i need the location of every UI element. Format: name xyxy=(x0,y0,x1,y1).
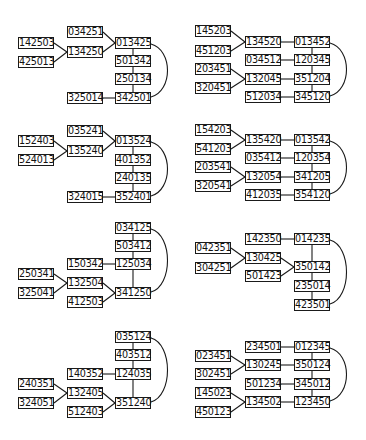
edge xyxy=(231,248,245,258)
edge xyxy=(103,131,115,141)
permutation-node: 135240 xyxy=(67,145,103,157)
edge xyxy=(231,130,245,140)
arc-edge xyxy=(151,338,168,402)
permutation-node: 134250 xyxy=(67,46,103,58)
permutation-node: 123450 xyxy=(294,396,330,408)
permutation-node: 320451 xyxy=(195,82,231,94)
permutation-node: 351204 xyxy=(294,73,330,85)
permutation-node: 412503 xyxy=(67,296,103,308)
edge xyxy=(103,403,115,412)
permutation-node: 320541 xyxy=(195,180,231,192)
edge xyxy=(231,79,245,88)
permutation-node: 013524 xyxy=(115,135,151,147)
edge xyxy=(231,402,245,412)
arc-edge xyxy=(330,348,347,401)
permutation-node: 203451 xyxy=(195,63,231,75)
permutation-node: 342501 xyxy=(115,92,151,104)
permutation-node: 034251 xyxy=(67,26,103,38)
permutation-node: 425013 xyxy=(18,56,54,68)
edge xyxy=(54,283,67,293)
edge xyxy=(103,32,115,43)
edge xyxy=(103,293,115,302)
permutation-node: 035412 xyxy=(245,152,281,164)
permutation-node: 341205 xyxy=(294,171,330,183)
permutation-node: 125034 xyxy=(115,258,151,270)
edge xyxy=(231,258,245,268)
edge xyxy=(103,141,115,151)
permutation-node: 023451 xyxy=(195,350,231,362)
permutation-node: 503412 xyxy=(115,240,151,252)
permutation-node: 250134 xyxy=(115,73,151,85)
edge xyxy=(54,151,67,160)
permutation-node: 450123 xyxy=(195,406,231,418)
edges-layer xyxy=(0,0,366,440)
edge xyxy=(103,283,115,293)
permutation-node: 350142 xyxy=(294,261,330,273)
permutation-node: 132054 xyxy=(245,171,281,183)
permutation-node: 451203 xyxy=(195,45,231,57)
permutation-node: 132504 xyxy=(67,277,103,289)
permutation-node: 130245 xyxy=(245,359,281,371)
permutation-node: 034125 xyxy=(115,222,151,234)
permutation-node: 341250 xyxy=(115,287,151,299)
edge xyxy=(231,42,245,51)
permutation-node: 120354 xyxy=(294,152,330,164)
permutation-node: 304251 xyxy=(195,262,231,274)
permutation-node: 134520 xyxy=(245,36,281,48)
permutation-node: 324015 xyxy=(67,191,103,203)
permutation-node: 501423 xyxy=(245,270,281,282)
permutation-node: 132405 xyxy=(67,387,103,399)
permutation-node: 142503 xyxy=(18,37,54,49)
permutation-node: 135420 xyxy=(245,134,281,146)
permutation-node: 352401 xyxy=(115,191,151,203)
permutation-node: 203541 xyxy=(195,161,231,173)
edge xyxy=(281,258,294,267)
edge xyxy=(231,356,245,365)
permutation-node: 350124 xyxy=(294,359,330,371)
edge xyxy=(231,167,245,177)
edge xyxy=(231,69,245,79)
permutation-node: 142350 xyxy=(245,233,281,245)
edge xyxy=(231,140,245,149)
permutation-node: 234501 xyxy=(245,341,281,353)
permutation-node: 132045 xyxy=(245,73,281,85)
permutation-node: 403512 xyxy=(115,349,151,361)
permutation-node: 240351 xyxy=(18,378,54,390)
permutation-node: 302451 xyxy=(195,368,231,380)
permutation-node: 345012 xyxy=(294,378,330,390)
arc-edge xyxy=(330,141,347,194)
permutation-node: 042351 xyxy=(195,242,231,254)
edge xyxy=(54,141,67,151)
permutation-node: 345120 xyxy=(294,91,330,103)
permutation-node: 013425 xyxy=(115,37,151,49)
permutation-node: 325014 xyxy=(67,92,103,104)
permutation-node: 324051 xyxy=(18,397,54,409)
permutation-node: 120345 xyxy=(294,54,330,66)
permutation-node: 235014 xyxy=(294,280,330,292)
arc-edge xyxy=(151,142,168,196)
permutation-node: 034512 xyxy=(245,54,281,66)
permutation-node: 145203 xyxy=(195,25,231,37)
permutation-node: 501342 xyxy=(115,55,151,67)
permutation-node: 412035 xyxy=(245,189,281,201)
edge xyxy=(54,274,67,283)
permutation-node: 512403 xyxy=(67,406,103,418)
permutation-node: 354120 xyxy=(294,189,330,201)
permutation-node: 512034 xyxy=(245,91,281,103)
permutation-node: 014235 xyxy=(294,233,330,245)
edge xyxy=(103,43,115,52)
permutation-node: 250341 xyxy=(18,268,54,280)
arc-edge xyxy=(330,43,347,96)
edge xyxy=(103,393,115,403)
permutation-node: 134502 xyxy=(245,396,281,408)
edge xyxy=(281,267,294,276)
permutation-node: 541203 xyxy=(195,143,231,155)
edge xyxy=(54,393,67,403)
permutation-node: 150342 xyxy=(67,258,103,270)
permutation-node: 524013 xyxy=(18,154,54,166)
permutation-node: 012345 xyxy=(294,341,330,353)
arc-edge xyxy=(151,229,168,292)
permutation-node: 423501 xyxy=(294,299,330,311)
edge xyxy=(231,177,245,186)
permutation-node: 035241 xyxy=(67,125,103,137)
